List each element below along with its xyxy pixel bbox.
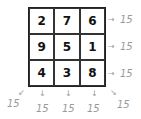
cell-r1c3: 6 [80,8,105,34]
cell-r2c3: 1 [80,34,105,60]
arrow-down-icon: ↓ [39,90,46,98]
arrow-right-icon: → [108,16,115,24]
column-3-sum: 15 [87,103,100,114]
cell-r1c2: 7 [54,8,79,34]
magic-square-grid: 2 7 6 9 5 1 4 3 8 [28,7,106,87]
arrow-down-icon: ↓ [65,90,72,98]
arrow-right-icon: → [108,43,115,51]
arrow-right-icon: → [108,70,115,78]
arrow-down-right-icon: ↘ [110,89,117,97]
arrow-down-left-icon: ↙ [18,89,25,97]
cell-r2c2: 5 [54,34,79,60]
column-1-sum: 15 [36,103,49,114]
anti-diagonal-sum: 15 [7,98,20,109]
column-2-sum: 15 [62,103,75,114]
row-1-sum: 15 [120,14,133,25]
cell-r3c3: 8 [80,60,105,86]
main-diagonal-sum: 15 [117,99,130,110]
cell-r3c2: 3 [54,60,79,86]
arrow-down-icon: ↓ [91,90,98,98]
cell-r1c1: 2 [29,8,54,34]
cell-r3c1: 4 [29,60,54,86]
row-2-sum: 15 [120,41,133,52]
cell-r2c1: 9 [29,34,54,60]
row-3-sum: 15 [120,68,133,79]
